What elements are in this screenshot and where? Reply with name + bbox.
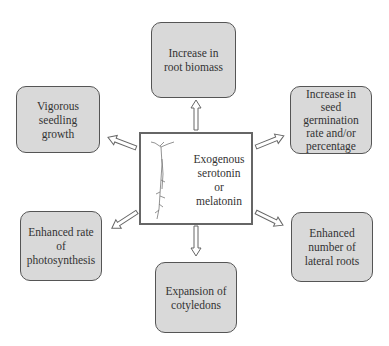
- effect-box-photosynthesis: Enhanced rate of photosynthesis: [20, 211, 102, 281]
- center-label-line: serotonin: [187, 166, 251, 180]
- effect-box-cotyledons: Expansion of cotyledons: [155, 262, 237, 333]
- seedling-icon: [141, 134, 191, 222]
- arrow-down-icon: [191, 226, 201, 256]
- effect-box-seedling-growth: Vigorous seedling growth: [16, 86, 100, 153]
- effect-box-germination: Increase in seed germination rate and/or…: [290, 86, 372, 154]
- arrow-lower-left-icon: [109, 208, 140, 233]
- center-label-line: melatonin: [187, 194, 251, 208]
- center-label-line: Exogenous: [187, 152, 251, 166]
- center-label-line: or: [187, 180, 251, 194]
- arrow-upper-right-icon: [254, 131, 286, 152]
- center-label: Exogenous serotonin or melatonin: [187, 152, 251, 208]
- arrow-up-icon: [191, 100, 201, 130]
- effect-box-lateral-roots: Enhanced number of lateral roots: [291, 212, 373, 282]
- arrow-upper-left-icon: [106, 133, 138, 153]
- effect-box-root-biomass: Increase in root biomass: [151, 22, 236, 98]
- center-box: Exogenous serotonin or melatonin: [139, 132, 253, 225]
- arrow-lower-right-icon: [254, 208, 285, 230]
